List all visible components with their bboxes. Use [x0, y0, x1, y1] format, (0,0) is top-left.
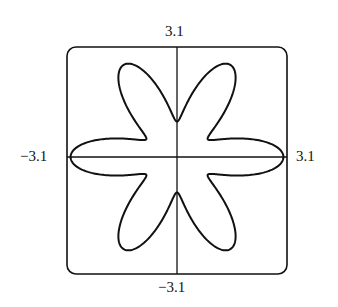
polar-plot-figure: 3.1 −3.1 −3.1 3.1 — [0, 0, 338, 307]
tick-label-bottom: −3.1 — [158, 279, 185, 296]
plot-canvas — [0, 0, 338, 307]
tick-label-right: 3.1 — [296, 148, 315, 165]
tick-label-top: 3.1 — [165, 23, 184, 40]
tick-label-left: −3.1 — [20, 148, 47, 165]
